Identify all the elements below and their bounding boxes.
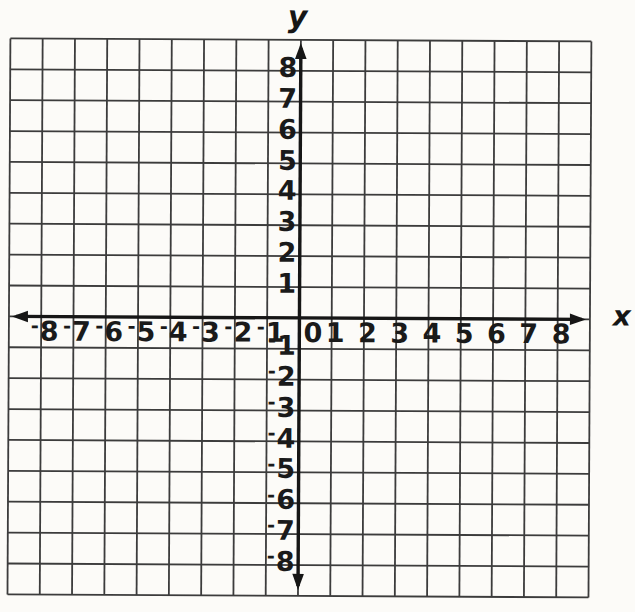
raised-minus-sign: - [267,545,275,568]
tick-number: 6 [276,484,294,515]
raised-minus-sign: - [267,422,275,445]
x-axis-tick-label: 3 [390,320,408,346]
tick-number: 2 [277,237,295,268]
y-axis-tick-label: 1 [277,270,295,298]
raised-minus-sign: - [268,360,276,383]
x-axis-tick-label: 4 [423,321,441,347]
x-axis-title: x [613,302,631,332]
tick-number: 7 [72,316,90,347]
tick-number: 3 [201,316,219,347]
x-axis-tick-label: 1 [326,320,344,346]
tick-number: 7 [276,515,294,546]
tick-number: 5 [455,318,473,349]
tick-number: 5 [137,316,155,347]
tick-number: 1 [277,268,295,299]
x-axis-tick-label: -8 [31,318,58,347]
tick-number: 4 [169,316,187,347]
raised-minus-sign: - [267,452,275,475]
raised-minus-sign: - [267,514,275,537]
x-axis-tick-label: 2 [358,320,376,346]
x-axis-tick-label: -5 [127,319,154,348]
y-axis-tick-label: 3 [278,208,296,236]
tick-number: 1 [326,317,344,348]
x-axis-tick-label: 6 [487,321,505,347]
coordinate-grid-page: -8-7-6-5-4-3-2-1012345678 87654321-1-2-3… [0,0,635,612]
tick-number: 5 [276,453,294,484]
raised-minus-sign: - [160,315,168,338]
raised-minus-sign: - [63,315,71,338]
coordinate-plane: -8-7-6-5-4-3-2-1012345678 87654321-1-2-3… [0,0,635,612]
tick-number: 6 [278,113,296,144]
tick-number: 8 [278,52,296,83]
y-axis-tick-label: 5 [278,146,296,174]
x-axis-tick-label: -4 [160,319,187,348]
tick-number: 2 [358,317,376,348]
tick-number: 0 [303,317,321,348]
tick-number: 3 [278,206,296,237]
tick-number: 8 [552,318,570,349]
y-axis-tick-label: 7 [278,85,296,113]
tick-number: 7 [519,318,537,349]
y-axis-tick-label: -3 [268,393,295,424]
x-axis-tick-label: 5 [455,321,473,347]
y-axis-tick-label: -7 [267,517,294,548]
x-axis-tick-label: -7 [63,319,90,348]
tick-number: 6 [104,316,122,347]
tick-number: 1 [277,330,295,361]
y-axis-tick-label: 8 [278,54,296,82]
tick-number: 4 [278,175,296,206]
y-axis-tick-label: 4 [278,177,296,205]
x-axis-tick-label: -3 [192,319,219,348]
tick-number: 4 [422,318,440,349]
y-axis-tick-label: -1 [268,332,295,363]
x-axis-tick-label: 0 [303,320,321,346]
y-axis-tick-label: -5 [267,455,294,486]
tick-number: 8 [40,316,58,347]
tick-number: 8 [276,546,294,577]
y-axis-tick-label: -2 [268,363,295,394]
raised-minus-sign: - [192,316,200,339]
y-axis-tick-label: -4 [267,424,294,455]
tick-number: 3 [277,391,295,422]
y-axis-title: y [288,0,308,34]
raised-minus-sign: - [224,316,232,339]
raised-minus-sign: - [257,316,265,339]
raised-minus-sign: - [95,315,103,338]
y-axis-tick-label: -8 [267,548,294,579]
raised-minus-sign: - [268,391,276,414]
raised-minus-sign: - [128,315,136,338]
tick-number: 5 [278,144,296,175]
x-axis-tick-label: 7 [519,321,537,347]
x-axis-tick-label: -6 [95,319,122,348]
y-axis-tick-label: -6 [267,486,294,517]
tick-number: 6 [487,318,505,349]
tick-number: 3 [390,317,408,348]
raised-minus-sign: - [267,483,275,506]
grid-svg [0,0,635,612]
tick-number: 2 [277,361,295,392]
tick-number: 4 [276,422,294,453]
y-axis-tick-label: 6 [278,115,296,143]
raised-minus-sign: - [31,315,39,338]
x-axis-tick-label: -2 [224,320,251,349]
x-axis-tick-label: 8 [552,321,570,347]
y-axis-tick-label: 2 [277,239,295,267]
tick-number: 7 [278,83,296,114]
tick-number: 2 [233,317,251,348]
raised-minus-sign: - [268,329,276,352]
